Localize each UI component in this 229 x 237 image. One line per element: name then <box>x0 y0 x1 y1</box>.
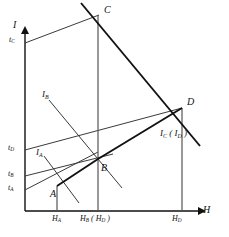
xtick-HA-sub: A <box>58 217 61 223</box>
xtick-HD-base: H <box>172 214 178 223</box>
ytick-tB: tB <box>8 170 13 178</box>
curve-label-IA: IA <box>36 148 43 157</box>
xtick-HD: HD <box>172 215 182 223</box>
y-axis-label: I <box>13 20 16 30</box>
ytick-tD: tD <box>8 144 14 152</box>
line-IB-slant <box>49 100 122 188</box>
xtick-HB-HC: HB ( HD ) <box>80 215 110 223</box>
curve-IC-sub: C <box>163 133 167 139</box>
line-tC-to-C <box>25 15 99 43</box>
ytick-tA: tA <box>8 184 13 192</box>
ytick-tB-sub: B <box>10 172 13 178</box>
curve-IA-sub: A <box>39 152 43 158</box>
ytick-tC-sub: C <box>11 38 15 44</box>
xtick-HB-sub: B <box>86 217 89 223</box>
ytick-tA-sub: A <box>10 186 13 192</box>
xtick-HC-paren: ( HD ) <box>89 214 110 223</box>
xtick-HD-sub: D <box>178 217 182 223</box>
construction-lines <box>25 15 182 203</box>
point-label-B: B <box>101 163 107 173</box>
xtick-HA: HA <box>52 215 61 223</box>
diagram-canvas <box>0 0 229 237</box>
ytick-tD-sub: D <box>10 146 14 152</box>
line-tD-to-D <box>25 108 182 150</box>
line-A-B-D <box>57 108 182 186</box>
xtick-HA-base: H <box>52 214 58 223</box>
point-label-C: C <box>104 5 111 15</box>
curve-IB-sub: B <box>45 94 49 100</box>
axis-group <box>25 33 199 211</box>
x-axis-label: H <box>203 205 210 215</box>
point-label-A: A <box>50 189 56 199</box>
xtick-HB-base: H <box>80 214 86 223</box>
curve-label-IB: IB <box>42 90 49 99</box>
line-tA-to-A <box>25 152 98 190</box>
line-C-to-D-extended <box>81 3 200 146</box>
curve-ID-paren: ( ID ) <box>167 128 187 138</box>
process-lines <box>57 3 200 186</box>
ytick-tC: tC <box>9 36 15 44</box>
curve-label-IC-ID: IC ( ID ) <box>160 129 187 138</box>
point-label-D: D <box>187 97 194 107</box>
psychrometric-diagram: I H A B C D tC tD tB tA HA HB ( HD ) HD … <box>0 0 229 237</box>
